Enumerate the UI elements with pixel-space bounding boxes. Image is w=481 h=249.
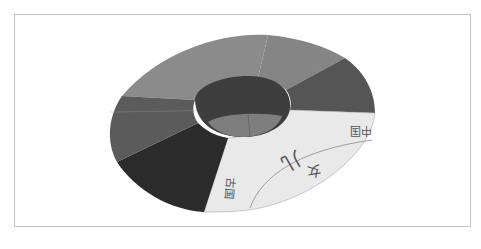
label-right: 中国 bbox=[350, 124, 372, 137]
label-bottom-left: 古国 bbox=[222, 177, 237, 200]
label-lower: 女 bbox=[306, 162, 323, 180]
doughnut-chart: 中国 儿 女 古国 bbox=[0, 0, 481, 249]
